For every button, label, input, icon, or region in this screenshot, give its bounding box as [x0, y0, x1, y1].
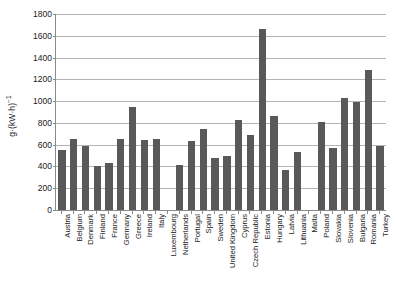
x-axis-tick-label: Hungary [276, 214, 284, 243]
x-axis-tick-label: Malta [311, 214, 319, 233]
x-axis-tick-label: Finland [99, 214, 107, 239]
y-axis-tick-label: 0 [22, 206, 52, 215]
x-axis-tick-label: Czech Republic [252, 214, 260, 267]
x-axis-tick-label: Italy [158, 214, 166, 228]
x-axis-tick-label: Bulgaria [359, 214, 367, 242]
y-axis-tick-label: 1400 [22, 53, 52, 62]
x-axis-tickmark [367, 210, 368, 214]
bars-group [56, 14, 386, 210]
x-axis-tickmark [108, 210, 109, 214]
bar [70, 139, 77, 210]
y-axis-title-text: g·(kW·h)−1 [7, 95, 17, 136]
x-axis-tick-label: Cyprus [241, 214, 249, 238]
bar [376, 146, 383, 210]
bar [94, 166, 101, 210]
x-axis-tick-label: Romania [370, 214, 378, 244]
bar [117, 139, 124, 210]
x-axis-tick-label: Greece [135, 214, 143, 239]
x-axis-tick-labels: AustriaBelgiumDenmarkFinlandFranceGerman… [55, 214, 385, 298]
bar [105, 163, 112, 210]
x-axis-tickmark [273, 210, 274, 214]
bar [223, 156, 230, 210]
y-axis-tick-label: 800 [22, 119, 52, 128]
x-axis-tickmark [379, 210, 380, 214]
y-axis-tick-label: 1200 [22, 75, 52, 84]
bar [141, 140, 148, 210]
bar [329, 148, 336, 210]
y-axis-tick-label: 1000 [22, 97, 52, 106]
x-axis-tick-label: Netherlands [182, 214, 190, 255]
x-axis-tickmark [202, 210, 203, 214]
x-axis-tickmark [214, 210, 215, 214]
x-axis-tickmark [143, 210, 144, 214]
x-axis-tickmark [344, 210, 345, 214]
y-axis-tick-label: 1600 [22, 32, 52, 41]
x-axis-tickmark [320, 210, 321, 214]
bar [176, 165, 183, 210]
bar [58, 150, 65, 210]
x-axis-tick-label: Austria [64, 214, 72, 238]
bar [294, 152, 301, 210]
bar-chart-figure: g·(kW·h)−1 02004006008001000120014001600… [0, 0, 395, 298]
x-axis-tickmark [191, 210, 192, 214]
x-axis-tick-label: United Kingdom [229, 214, 237, 268]
bar [211, 158, 218, 210]
x-axis-tick-label: Spain [205, 214, 213, 233]
y-axis-title-exponent: −1 [5, 95, 12, 103]
x-axis-tick-label: Poland [323, 214, 331, 238]
bar [129, 107, 136, 210]
x-axis-tickmark [356, 210, 357, 214]
x-axis-tickmark [61, 210, 62, 214]
bar [341, 98, 348, 210]
x-axis-tick-label: Slovakia [335, 214, 343, 243]
y-axis-title: g·(kW·h)−1 [0, 0, 24, 232]
x-axis-tick-label: Ireland [146, 214, 154, 237]
y-axis-tick-labels: 020040060080010001200140016001800 [22, 14, 52, 210]
x-axis-tickmark [238, 210, 239, 214]
bar [259, 29, 266, 210]
bar [353, 102, 360, 210]
y-axis-tick-label: 600 [22, 140, 52, 149]
x-axis-tick-label: Belgium [76, 214, 84, 241]
x-axis-tickmark [179, 210, 180, 214]
x-axis-tickmark [261, 210, 262, 214]
x-axis-tickmark [73, 210, 74, 214]
x-axis-tick-label: Slovenia [347, 214, 355, 243]
x-axis-tick-label: Lithuania [300, 214, 308, 245]
x-axis-tick-label: Denmark [87, 214, 95, 245]
bar [153, 139, 160, 210]
bar [365, 70, 372, 210]
x-axis-tick-label: Estonia [264, 214, 272, 239]
y-axis-tick-label: 400 [22, 162, 52, 171]
x-axis-tickmark [226, 210, 227, 214]
x-axis-tickmark [332, 210, 333, 214]
x-axis-tick-label: Turkey [382, 214, 390, 237]
bar [200, 129, 207, 210]
x-axis-tickmark [167, 210, 168, 214]
bar [282, 170, 289, 210]
x-axis-tick-label: Luxembourg [170, 214, 178, 256]
plot-area [55, 14, 386, 210]
x-axis-tickmark [249, 210, 250, 214]
bar [318, 122, 325, 210]
bar [270, 116, 277, 210]
bar [82, 146, 89, 210]
x-axis-tick-label: Portugal [194, 214, 202, 242]
x-axis-tickmark [120, 210, 121, 214]
x-axis-tickmark [285, 210, 286, 214]
x-axis-tick-label: Germany [123, 214, 131, 245]
x-axis-tickmark [96, 210, 97, 214]
bar [188, 141, 195, 210]
bar [235, 120, 242, 210]
x-axis-tickmark [132, 210, 133, 214]
y-axis-tick-label: 200 [22, 184, 52, 193]
y-axis-tick-label: 1800 [22, 10, 52, 19]
x-axis-tick-label: France [111, 214, 119, 238]
x-axis-tick-label: Sweden [217, 214, 225, 241]
x-axis-tickmark [297, 210, 298, 214]
bar [247, 135, 254, 210]
x-axis-tick-label: Latvia [288, 214, 296, 234]
